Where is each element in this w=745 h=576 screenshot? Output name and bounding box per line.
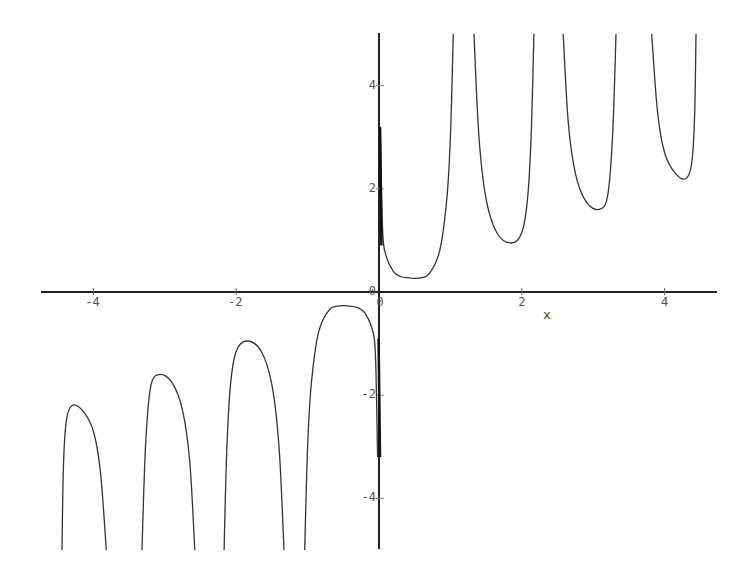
y-tick-label: -4	[362, 490, 376, 504]
x-tick-label: 2	[518, 295, 525, 309]
curve-branch	[474, 34, 534, 243]
x-tick-label: 0	[376, 295, 383, 309]
curve-branch	[652, 34, 696, 179]
spike-segment	[379, 338, 380, 457]
spike-segment	[380, 127, 381, 246]
curve-branch	[62, 405, 106, 550]
y-tick-label: -2	[362, 387, 376, 401]
curve-branch	[142, 374, 195, 550]
x-axis-title: x	[543, 307, 551, 322]
curve-branch	[224, 341, 284, 550]
x-tick-label: -2	[228, 295, 242, 309]
curve-branch	[305, 306, 378, 550]
y-tick-label: 0	[369, 284, 376, 298]
x-tick-label: -4	[85, 295, 99, 309]
y-tick-label: 4	[369, 78, 376, 92]
y-tick-label: 2	[369, 181, 376, 195]
curve-branch	[563, 34, 616, 210]
x-tick-label: 4	[661, 295, 668, 309]
axes	[41, 33, 717, 549]
curve-branch	[380, 34, 453, 278]
